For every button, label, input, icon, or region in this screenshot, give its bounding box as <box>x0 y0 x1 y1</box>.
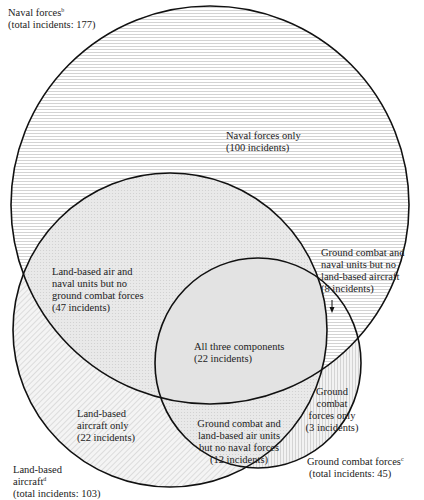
region-label-line: forces only <box>300 410 364 422</box>
air-set-total: (total incidents: 103) <box>13 488 100 500</box>
region-label-line: Ground combat and <box>321 247 404 259</box>
ground-set-label: Ground combat forcesc (total incidents: … <box>307 456 404 480</box>
ground-set-total: (total incidents: 45) <box>307 468 404 480</box>
region-label-line: naval units but no <box>321 259 404 271</box>
naval-set-title: Naval forces <box>8 7 61 18</box>
air-set-title-line1: Land-based <box>13 464 100 476</box>
region-label-line: Ground <box>300 386 364 398</box>
region-label-line: All three components <box>194 341 284 353</box>
air-footnote: d <box>43 476 46 482</box>
air-set-label: Land-based aircraftd (total incidents: 1… <box>13 464 100 500</box>
ground-set-title: Ground combat forces <box>307 456 401 467</box>
region-ground-naval: Ground combat and naval units but no lan… <box>321 247 404 295</box>
region-label-line: (8 incidents) <box>321 283 404 295</box>
region-label-line: naval units but no <box>52 278 144 290</box>
naval-set-total: (total incidents: 177) <box>8 19 95 31</box>
region-label-line: (22 incidents) <box>194 353 284 365</box>
region-all-three: All three components (22 incidents) <box>194 341 284 365</box>
region-label-line: (100 incidents) <box>226 142 301 154</box>
ground-footnote: c <box>401 456 404 462</box>
region-air-only: Land-based aircraft only (22 incidents) <box>77 408 135 444</box>
region-label-line: Ground combat and <box>182 418 296 430</box>
region-label-line: Naval forces only <box>226 130 301 142</box>
region-label-line: (12 incidents) <box>182 454 296 466</box>
region-label-line: Land-based <box>77 408 135 420</box>
region-label-line: ground combat forces <box>52 290 144 302</box>
region-label-line: (3 incidents) <box>300 422 364 434</box>
region-label-line: (22 incidents) <box>77 432 135 444</box>
region-label-line: Land-based air and <box>52 266 144 278</box>
region-ground-air: Ground combat and land-based air units b… <box>182 418 296 466</box>
air-set-title-line2: aircraft <box>13 476 43 487</box>
region-label-line: aircraft only <box>77 420 135 432</box>
region-label-line: combat <box>300 398 364 410</box>
region-ground-only: Ground combat forces only (3 incidents) <box>300 386 364 434</box>
region-naval-only: Naval forces only (100 incidents) <box>226 130 301 154</box>
region-label-line: (47 incidents) <box>52 302 144 314</box>
region-label-line: land-based air units <box>182 430 296 442</box>
naval-set-label: Naval forcesb (total incidents: 177) <box>8 7 95 31</box>
region-label-line: land-based aircraft <box>321 271 404 283</box>
region-label-line: but no naval forces <box>182 442 296 454</box>
naval-footnote: b <box>61 7 64 13</box>
region-air-naval: Land-based air and naval units but no gr… <box>52 266 144 314</box>
